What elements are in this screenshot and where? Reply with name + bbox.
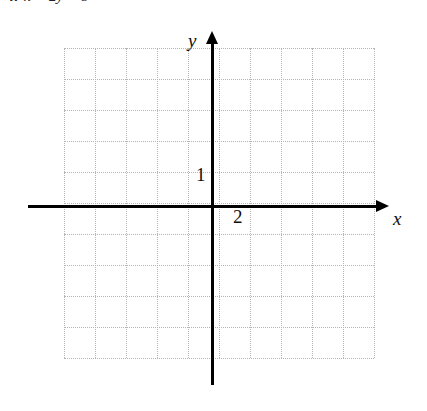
problem-variable-x: x [24,0,31,4]
y-axis-line [211,44,214,385]
grid-line-horizontal-0 [64,48,374,49]
x-axis-label: x [393,209,401,228]
x-axis-arrowhead-icon [376,200,389,212]
problem-variable-y: y [56,0,63,4]
grid-line-vertical-10 [374,48,375,358]
y-axis-label: y [188,31,196,50]
coordinate-grid-figure: 4.x−2y=8 y x 1 2 [0,0,427,411]
problem-right-hand-side: 8 [81,0,89,4]
problem-equals-sign: = [68,0,77,4]
grid-line-horizontal-6 [64,234,374,235]
problem-statement: 4.x−2y=8 [6,0,266,8]
x-axis-line [28,205,380,208]
grid-line-horizontal-8 [64,296,374,297]
tick-label-x-2: 2 [233,207,243,226]
problem-number: 4. [6,0,18,4]
problem-minus-operator: − [35,0,44,4]
tick-label-y-1: 1 [196,165,206,184]
dotted-grid [64,48,374,358]
grid-line-horizontal-10 [64,358,374,359]
grid-line-horizontal-5 [64,203,374,204]
grid-line-horizontal-1 [64,79,374,80]
grid-line-horizontal-3 [64,141,374,142]
grid-line-horizontal-7 [64,265,374,266]
grid-line-horizontal-9 [64,327,374,328]
grid-line-horizontal-4 [64,172,374,173]
y-axis-arrowhead-icon [206,31,218,44]
grid-line-horizontal-2 [64,110,374,111]
